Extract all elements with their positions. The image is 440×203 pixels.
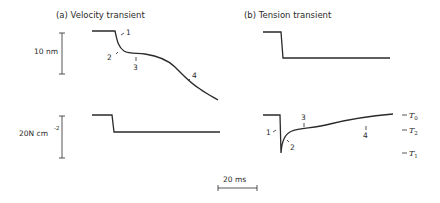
svg-text:T0: T0 xyxy=(409,111,418,121)
time-scale-label: 20 ms xyxy=(223,175,246,184)
velocity-length-trace xyxy=(92,31,218,100)
marker-a1: 1 xyxy=(126,28,131,37)
length-scale-label: 10 nm xyxy=(34,47,58,56)
tension-length-trace xyxy=(263,32,390,58)
marker-tick-a1 xyxy=(121,33,124,35)
tension-scale-bar xyxy=(59,116,65,158)
panel-b: (b) Tension transient 1 2 3 4 T0 T2 T1 xyxy=(244,10,418,159)
marker-b4: 4 xyxy=(363,131,368,140)
marker-b2: 2 xyxy=(290,143,295,152)
length-scale-bar xyxy=(59,33,65,74)
figure-canvas: (a) Velocity transient 10 nm 1 2 3 4 20N… xyxy=(0,0,440,203)
velocity-tension-trace xyxy=(92,115,220,132)
tension-scale-label: 20N cm xyxy=(19,129,48,138)
marker-a3: 3 xyxy=(133,63,138,72)
level-t1: T1 xyxy=(402,149,418,159)
panel-a: (a) Velocity transient 10 nm 1 2 3 4 20N… xyxy=(19,10,220,158)
time-scale-bar xyxy=(218,185,257,191)
marker-b1: 1 xyxy=(266,128,271,137)
tension-transient-trace xyxy=(263,114,393,153)
marker-a2: 2 xyxy=(107,53,112,62)
panel-b-title: (b) Tension transient xyxy=(244,10,332,20)
marker-tick-b1 xyxy=(273,130,276,132)
svg-text:T1: T1 xyxy=(409,149,418,159)
marker-b3: 3 xyxy=(301,113,306,122)
level-t2: T2 xyxy=(402,126,418,136)
level-t0: T0 xyxy=(402,111,418,121)
panel-a-title: (a) Velocity transient xyxy=(56,10,145,20)
svg-text:T2: T2 xyxy=(409,126,418,136)
tension-scale-exponent: -2 xyxy=(54,125,59,131)
marker-tick-a2 xyxy=(116,52,118,54)
marker-tick-b2 xyxy=(287,140,289,142)
marker-a4: 4 xyxy=(192,71,197,80)
